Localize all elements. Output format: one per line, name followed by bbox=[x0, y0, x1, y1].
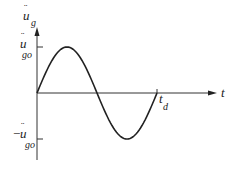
duration-label: t d bbox=[159, 91, 169, 112]
positive-peak-label-subscript: go bbox=[22, 49, 32, 60]
y-axis-label-subscript: g bbox=[31, 17, 36, 28]
y-axis-arrow-icon bbox=[35, 27, 40, 36]
x-axis-label: t bbox=[221, 85, 225, 100]
x-axis-arrow-icon bbox=[208, 91, 217, 96]
diagram-canvas: ¨ u g ¨ u go − ¨ u go t d t bbox=[0, 0, 237, 171]
negative-peak-label: − ¨ u go bbox=[13, 121, 35, 150]
negative-peak-label-subscript: go bbox=[25, 139, 35, 150]
duration-label-subscript: d bbox=[163, 101, 169, 112]
y-axis-label: ¨ u g bbox=[23, 3, 36, 28]
y-axis-label-symbol: u bbox=[23, 8, 30, 23]
positive-peak-label: ¨ u go bbox=[20, 31, 32, 60]
